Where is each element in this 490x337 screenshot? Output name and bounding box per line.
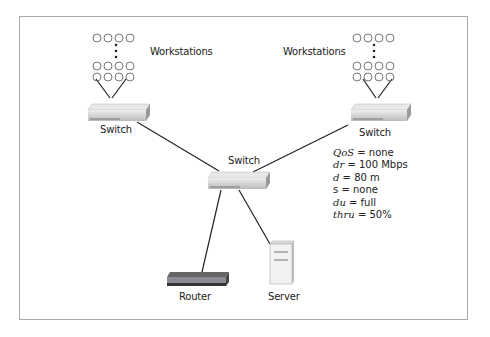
link-parameters: QoS = none dr = 100 Mbps d = 80 m s = no… xyxy=(333,147,408,221)
server-icon xyxy=(270,241,294,284)
router-label: Router xyxy=(179,291,211,302)
param-thru: thru = 50% xyxy=(333,209,408,221)
workstations-right-label: Workstations xyxy=(283,46,346,57)
param-du: du = full xyxy=(333,197,408,209)
param-d: d = 80 m xyxy=(333,172,408,184)
switch-icon-center xyxy=(208,172,270,189)
workstation-group-left xyxy=(93,34,134,81)
switch-center-label: Switch xyxy=(228,155,260,166)
network-diagram xyxy=(0,0,490,337)
workstations-left-label: Workstations xyxy=(150,46,213,57)
param-qos: QoS = none xyxy=(333,147,408,159)
server-label: Server xyxy=(268,291,300,302)
switch-icon-left xyxy=(88,104,150,121)
switch-right-label: Switch xyxy=(359,127,391,138)
switch-left-label: Switch xyxy=(100,124,132,135)
param-dr: dr = 100 Mbps xyxy=(333,159,408,171)
param-s: s = none xyxy=(333,184,408,196)
router-icon xyxy=(167,272,229,286)
switch-icon-right xyxy=(351,104,411,121)
